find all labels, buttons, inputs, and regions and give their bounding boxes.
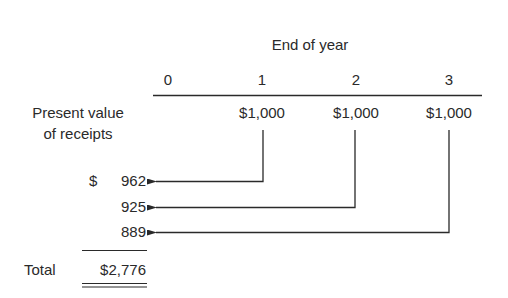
arrow-year-2	[156, 130, 355, 208]
arrow-year-1	[156, 130, 263, 182]
diagram-lines	[0, 0, 508, 298]
